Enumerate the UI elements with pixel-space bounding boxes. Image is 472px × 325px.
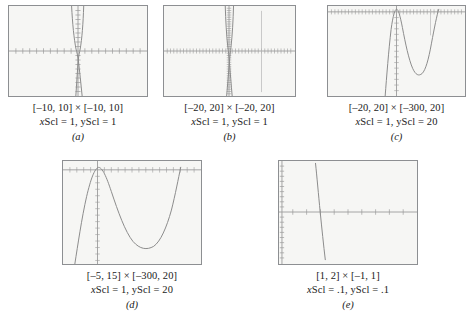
- x-axis-b: [164, 48, 295, 53]
- caption-c: [–20, 20] × [–300, 20] xScl = 1, yScl = …: [327, 101, 466, 128]
- panel-a: [–10, 10] × [–10, 10] xScl = 1, yScl = 1…: [8, 5, 148, 142]
- figure-container: [–10, 10] × [–10, 10] xScl = 1, yScl = 1…: [0, 0, 472, 325]
- scale-line-a: xScl = 1, yScl = 1: [8, 115, 148, 129]
- scale-line-e: xScl = .1, yScl = .1: [278, 283, 418, 297]
- scale-line-c: xScl = 1, yScl = 20: [327, 115, 466, 129]
- window-line-c: [–20, 20] × [–300, 20]: [327, 101, 466, 115]
- scale-line-d: xScl = 1, yScl = 20: [62, 283, 202, 297]
- panel-b: [–20, 20] × [–20, 20] xScl = 1, yScl = 1…: [163, 5, 296, 142]
- panel-letter-d: (d): [62, 299, 202, 310]
- panel-e: [1, 2] × [–1, 1] xScl = .1, yScl = .1 (e…: [278, 160, 418, 310]
- panel-letter-b: (b): [163, 131, 296, 142]
- caption-a: [–10, 10] × [–10, 10] xScl = 1, yScl = 1: [8, 101, 148, 128]
- graph-e: [279, 161, 417, 264]
- caption-e: [1, 2] × [–1, 1] xScl = .1, yScl = .1: [278, 269, 418, 296]
- calculator-screen-e: [278, 160, 418, 265]
- curve-e: [315, 163, 325, 260]
- graph-a: [9, 6, 147, 96]
- panel-c: [–20, 20] × [–300, 20] xScl = 1, yScl = …: [327, 5, 466, 142]
- graph-c: [328, 6, 465, 96]
- curve-d: [75, 167, 181, 264]
- scale-line-b: xScl = 1, yScl = 1: [163, 115, 296, 129]
- window-line-a: [–10, 10] × [–10, 10]: [8, 101, 148, 115]
- panel-letter-e: (e): [278, 299, 418, 310]
- window-line-d: [–5, 15] × [–300, 20]: [62, 269, 202, 283]
- window-line-b: [–20, 20] × [–20, 20]: [163, 101, 296, 115]
- panel-letter-c: (c): [327, 131, 466, 142]
- calculator-screen-b: [163, 5, 296, 97]
- calculator-screen-a: [8, 5, 148, 97]
- y-axis-e: [280, 161, 284, 264]
- calculator-screen-c: [327, 5, 466, 97]
- window-line-e: [1, 2] × [–1, 1]: [278, 269, 418, 283]
- panel-d: [–5, 15] × [–300, 20] xScl = 1, yScl = 2…: [62, 160, 202, 310]
- y-axis-d: [95, 161, 100, 264]
- y-axis-c: [394, 6, 399, 96]
- graph-b: [164, 6, 295, 96]
- calculator-screen-d: [62, 160, 202, 265]
- panel-letter-a: (a): [8, 131, 148, 142]
- caption-b: [–20, 20] × [–20, 20] xScl = 1, yScl = 1: [163, 101, 296, 128]
- graph-d: [63, 161, 201, 264]
- caption-d: [–5, 15] × [–300, 20] xScl = 1, yScl = 2…: [62, 269, 202, 296]
- x-axis-e: [279, 209, 417, 214]
